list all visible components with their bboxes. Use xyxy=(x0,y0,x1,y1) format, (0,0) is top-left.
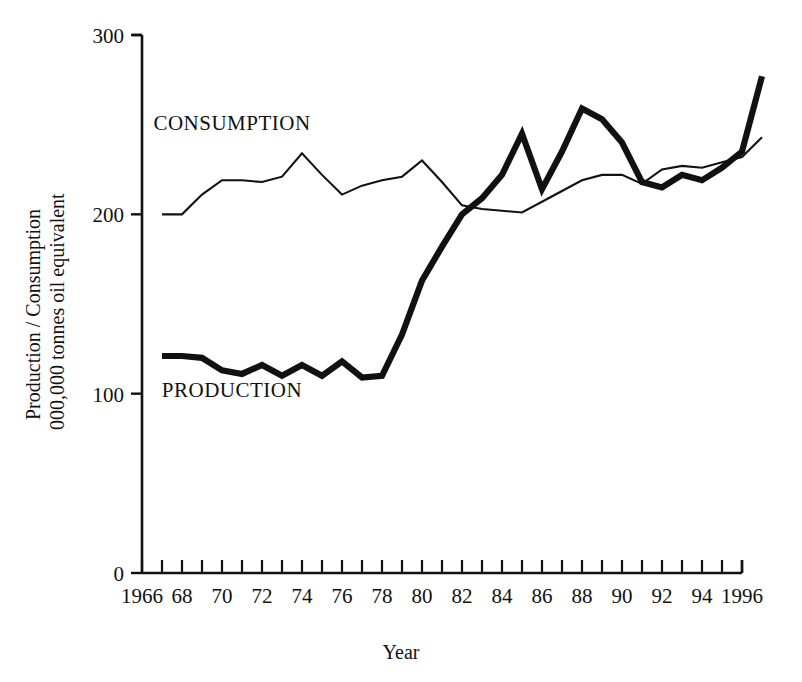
x-tick-label: 1966 xyxy=(121,584,163,608)
y-tick-label: 100 xyxy=(93,383,125,407)
y-axis-title-line1: Production / Consumption xyxy=(22,209,45,420)
x-tick-label: 90 xyxy=(612,584,633,608)
y-tick-label: 0 xyxy=(114,562,125,586)
series-label-production: PRODUCTION xyxy=(162,378,302,402)
x-tick-label: 76 xyxy=(332,584,353,608)
x-tick-label: 72 xyxy=(252,584,273,608)
x-tick-label: 82 xyxy=(452,584,473,608)
x-tick-label: 80 xyxy=(412,584,433,608)
chart-container: Production / Consumption 000,000 tonnes … xyxy=(0,0,802,682)
series-label-consumption: CONSUMPTION xyxy=(153,111,310,135)
x-tick-group xyxy=(142,560,742,573)
x-tick-label: 68 xyxy=(172,584,193,608)
x-tick-label: 78 xyxy=(372,584,393,608)
y-axis-title-line2: 000,000 tonnes oil equivalent xyxy=(46,193,69,430)
y-axis-title: Production / Consumption 000,000 tonnes … xyxy=(22,193,69,430)
x-tick-label: 86 xyxy=(532,584,553,608)
series-line-consumption xyxy=(162,137,762,214)
y-tick-group: 0100200300 xyxy=(93,24,143,586)
x-tick-label: 92 xyxy=(652,584,673,608)
x-tick-label: 74 xyxy=(292,584,314,608)
x-tick-label: 84 xyxy=(492,584,514,608)
y-tick-label: 200 xyxy=(93,203,125,227)
x-tick-label: 1996 xyxy=(721,584,763,608)
x-tick-label: 70 xyxy=(212,584,233,608)
x-axis-title: Year xyxy=(383,641,420,663)
x-tick-label-group: 196668707274767880828486889092941996 xyxy=(121,584,763,608)
x-tick-label: 88 xyxy=(572,584,593,608)
y-tick-label: 300 xyxy=(93,24,125,48)
x-tick-label: 94 xyxy=(692,584,714,608)
line-chart: Production / Consumption 000,000 tonnes … xyxy=(0,0,802,682)
